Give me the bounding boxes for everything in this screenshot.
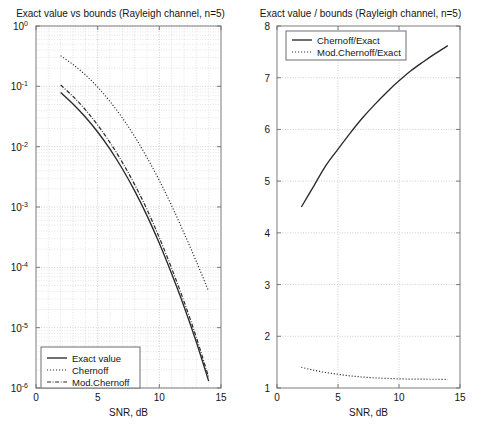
right-xtick-label: 10 (393, 392, 405, 403)
right-legend-label-1: Mod.Chernoff/Exact (317, 47, 401, 58)
right-chart-svg: 12345678051015SNR, dBChernoff/ExactMod.C… (240, 0, 481, 435)
right-xtick-label: 15 (454, 392, 466, 403)
left-legend: Exact valueChernoffMod.Chernoff (41, 347, 140, 388)
right-xaxis-title: SNR, dB (349, 407, 388, 418)
left-legend-label-1: Chernoff (72, 365, 109, 376)
left-ytick-label: 10-1 (11, 80, 28, 92)
left-chart-svg: 10010-110-210-310-410-510-6051015SNR, dB… (0, 0, 241, 435)
left-chart-panel: Exact value vs bounds (Rayleigh channel,… (0, 0, 241, 435)
left-ytick-label: 10-6 (11, 382, 28, 394)
right-ytick-label: 1 (264, 383, 270, 394)
left-xtick-label: 0 (33, 392, 39, 403)
right-ytick-label: 3 (264, 280, 270, 291)
left-ytick-label: 100 (13, 20, 28, 32)
left-ytick-label: 10-5 (11, 322, 28, 334)
left-ytick-label: 10-3 (11, 201, 28, 213)
right-ytick-label: 4 (264, 228, 270, 239)
left-legend-label-2: Mod.Chernoff (72, 377, 130, 388)
left-chart-title: Exact value vs bounds (Rayleigh channel,… (0, 7, 241, 20)
left-xtick-label: 5 (95, 392, 101, 403)
right-ytick-label: 6 (264, 124, 270, 135)
figure-container: Exact value vs bounds (Rayleigh channel,… (0, 0, 481, 435)
right-ytick-label: 8 (264, 21, 270, 32)
left-xtick-label: 15 (215, 392, 227, 403)
right-ytick-label: 7 (264, 73, 270, 84)
left-xaxis-title: SNR, dB (109, 407, 148, 418)
right-legend: Chernoff/ExactMod.Chernoff/Exact (286, 31, 406, 60)
left-ytick-label: 10-2 (11, 141, 28, 153)
left-ytick-label: 10-4 (11, 261, 28, 273)
right-ytick-label: 5 (264, 176, 270, 187)
right-xtick-label: 0 (274, 392, 280, 403)
left-legend-label-0: Exact value (72, 353, 121, 364)
right-xtick-label: 5 (335, 392, 341, 403)
right-legend-label-0: Chernoff/Exact (317, 35, 380, 46)
left-xtick-label: 10 (154, 392, 166, 403)
right-ytick-label: 2 (264, 331, 270, 342)
right-chart-title: Exact value / bounds (Rayleigh channel, … (240, 7, 481, 20)
right-plot-background (277, 26, 460, 388)
right-chart-panel: Exact value / bounds (Rayleigh channel, … (240, 0, 481, 435)
